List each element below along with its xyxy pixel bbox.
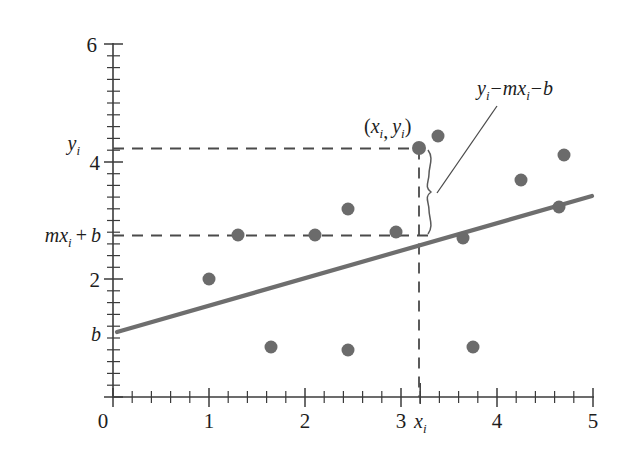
residual-expression-label: yi−mxi−b [475,77,553,103]
observed-y-var: y [65,132,76,155]
residual-x-var: x [516,77,526,99]
data-point [232,229,245,242]
y-tick-label-4: 4 [90,151,101,175]
x-axis-ticks [113,383,593,407]
highlighted-data-point [412,141,426,155]
data-point [553,201,566,214]
data-point [342,344,355,357]
data-point [265,341,278,354]
least-squares-line [117,196,592,332]
data-point [515,174,528,187]
residual-x-subscript: i [526,88,530,103]
fitted-m-var: m [45,224,59,246]
xi-axis-subscript: i [423,421,427,436]
observed-y-label: yi [65,132,80,158]
residual-m-var: m [503,77,517,99]
x-tick-label-1: 1 [204,409,215,433]
point-y-var: y [390,115,401,138]
xi-axis-var: x [413,410,423,432]
x-tick-label-3: 3 [396,409,407,433]
x-tick-label-4: 4 [492,409,503,433]
residual-b-var: b [543,77,553,99]
math-labels-group: yi mxi+b b xi (xi,yi) yi−mxi−b [45,77,553,436]
fitted-x-subscript: i [68,235,72,250]
data-point [390,226,403,239]
xi-axis-label: xi [413,410,427,436]
x-tick-label-5: 5 [588,409,599,433]
y-tick-label-6: 6 [87,33,98,57]
data-point [203,273,216,286]
point-x-var: x [370,115,380,137]
residual-brace [427,150,431,234]
paren-close: ) [405,115,412,138]
y-intercept-label: b [91,323,101,345]
data-point [467,341,480,354]
data-point [457,232,470,245]
residual-minus-1: − [491,77,502,99]
residual-minus-2: − [531,77,542,99]
point-comma: , [383,120,388,142]
y-tick-label-2: 2 [90,268,101,292]
point-coordinate-label: (xi,yi) [364,115,411,142]
x-tick-label-2: 2 [300,409,311,433]
fitted-x-var: x [58,224,68,246]
data-point [432,130,445,143]
fitted-b-var: b [91,224,101,246]
data-point [309,229,322,242]
data-point [342,203,355,216]
residual-leader-line [437,106,497,193]
origin-label: 0 [98,409,109,433]
guide-lines-group [113,149,430,398]
residual-y-subscript: i [486,88,490,103]
observed-y-subscript: i [76,143,80,158]
fitted-plus-sign: + [76,224,87,246]
residual-y-var: y [475,77,486,100]
regression-residual-figure: 6 4 2 0 1 2 3 4 5 yi mxi+b b xi [0,0,627,451]
fitted-y-label: mxi+b [45,224,101,250]
scatter-plot-canvas: 6 4 2 0 1 2 3 4 5 yi mxi+b b xi [0,0,627,451]
data-points-group [203,130,571,357]
data-point [558,149,571,162]
